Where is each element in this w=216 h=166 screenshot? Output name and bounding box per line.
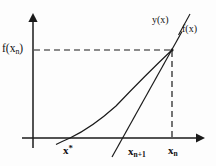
root-label-star: * [69, 143, 73, 153]
y-axis-value-paren: ) [19, 42, 23, 54]
tangent-curve-label: y(x) [152, 15, 169, 25]
x-axis-arrow-icon [196, 133, 205, 142]
newton-method-figure: f(xn) x* xn+1 xn y(x) f(x) [0, 0, 216, 166]
y-axis-value-subscript: n [15, 47, 19, 56]
root-label-text: x [63, 144, 69, 156]
tangency-point-marker [170, 48, 173, 51]
next-iterate-text: x [128, 145, 134, 157]
next-iterate-subscript: n+1 [134, 150, 146, 159]
current-iterate-text: x [168, 144, 174, 156]
x-axis-root-label: x* [63, 145, 73, 156]
current-iterate-subscript: n [174, 149, 178, 158]
y-axis-arrow-icon [28, 13, 37, 22]
x-axis-current-iterate-label: xn [168, 145, 178, 156]
y-axis-value-text: f(x [2, 42, 15, 54]
function-curve-fx [56, 50, 173, 145]
y-axis [28, 13, 37, 148]
x-axis-next-iterate-label: xn+1 [128, 146, 146, 157]
function-curve-label: f(x) [182, 24, 197, 34]
y-axis-value-label: f(xn) [2, 43, 23, 55]
x-axis [22, 133, 205, 142]
